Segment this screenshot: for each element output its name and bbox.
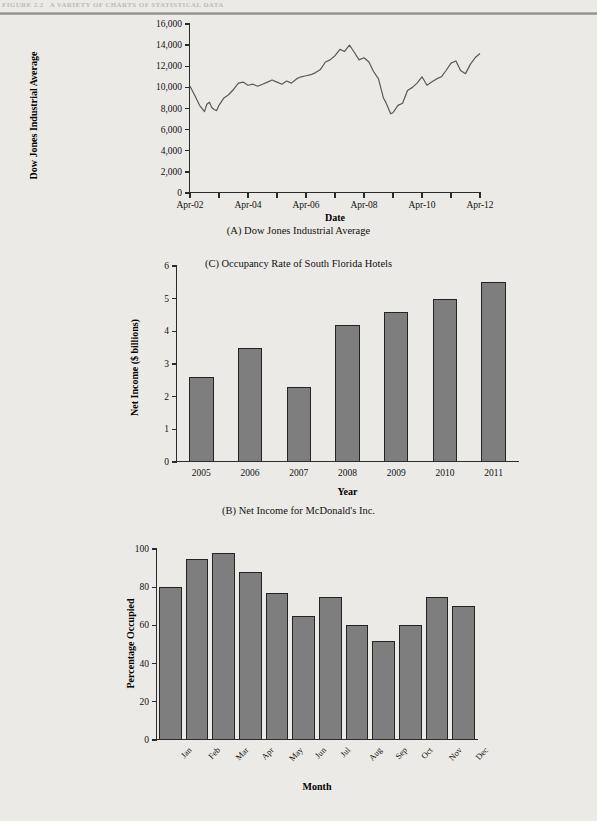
chart-a-plot-area xyxy=(190,24,480,193)
x-tick-label: Aug xyxy=(367,745,384,763)
figure-header: FIGURE 2.2A VARIETY OF CHARTS OF STATIST… xyxy=(0,0,597,10)
bar xyxy=(319,597,342,740)
bar xyxy=(372,641,395,740)
bar xyxy=(481,282,505,462)
y-tick-label: 0 xyxy=(0,735,149,745)
bar xyxy=(452,606,475,740)
y-tick-label: 4 xyxy=(0,326,169,336)
bar xyxy=(399,625,422,740)
y-tick-label: 12,000 xyxy=(0,61,182,71)
x-tick-mark xyxy=(189,193,190,198)
x-tick-label: 2009 xyxy=(387,468,406,478)
x-tick-label: Apr xyxy=(260,745,276,761)
x-tick-mark xyxy=(218,193,219,198)
x-tick-label: Apr-04 xyxy=(234,200,261,210)
y-tick-label: 4,000 xyxy=(0,146,182,156)
y-tick-label: 0 xyxy=(0,457,169,467)
bar xyxy=(426,597,449,740)
x-tick-mark xyxy=(392,193,393,198)
y-tick-label: 60 xyxy=(0,620,149,630)
x-tick-label: 2005 xyxy=(192,468,211,478)
header-rule xyxy=(0,12,597,15)
x-tick-label: May xyxy=(287,745,305,763)
x-tick-label: Apr-08 xyxy=(350,200,377,210)
x-tick-mark xyxy=(479,193,480,198)
y-tick-label: 80 xyxy=(0,582,149,592)
chart-b-x-axis xyxy=(176,461,519,462)
x-tick-mark xyxy=(363,193,364,198)
y-tick-label: 5 xyxy=(0,294,169,304)
chart-b-y-axis xyxy=(176,266,177,462)
dow-jones-line xyxy=(190,45,480,114)
x-tick-label: Feb xyxy=(206,745,222,761)
bar xyxy=(292,616,315,740)
chart-b-plot-area xyxy=(177,266,518,462)
bar xyxy=(335,325,359,462)
bar xyxy=(212,553,235,740)
bar xyxy=(266,593,289,740)
chart-a-line-series xyxy=(190,24,480,193)
chart-hotel-occupancy: Percentage Occupied 020406080100 JanFebM… xyxy=(0,543,597,813)
x-tick-label: Nov xyxy=(447,745,464,763)
bar xyxy=(159,587,182,740)
bar xyxy=(433,299,457,462)
x-tick-mark xyxy=(305,193,306,198)
chart-b-x-axis-title: Year xyxy=(177,486,518,497)
x-tick-label: Jan xyxy=(179,745,194,760)
chart-a-x-axis-title: Date xyxy=(190,212,480,223)
chart-b-caption: (B) Net Income for McDonald's Inc. xyxy=(0,505,597,516)
bar xyxy=(189,377,213,462)
bar xyxy=(287,387,311,462)
figure-title: A VARIETY OF CHARTS OF STATISTICAL DATA xyxy=(50,1,224,9)
y-tick-label: 8,000 xyxy=(0,104,182,114)
x-tick-label: Apr-12 xyxy=(466,200,493,210)
bar xyxy=(384,312,408,462)
bar xyxy=(346,625,369,740)
x-tick-mark xyxy=(450,193,451,198)
bar xyxy=(186,559,209,740)
x-tick-label: 2010 xyxy=(435,468,454,478)
chart-c-caption: (C) Occupancy Rate of South Florida Hote… xyxy=(0,258,597,269)
x-tick-label: 2008 xyxy=(338,468,357,478)
bar xyxy=(239,572,262,740)
bar xyxy=(238,348,262,462)
chart-mcdonalds-net-income: Net Income ($ billions) 0123456 20052006… xyxy=(0,262,597,512)
x-tick-label: Sep xyxy=(393,745,409,761)
chart-c-plot-area xyxy=(157,549,477,740)
y-tick-label: 40 xyxy=(0,659,149,669)
x-tick-label: Apr-06 xyxy=(292,200,319,210)
y-tick-label: 100 xyxy=(0,544,149,554)
y-tick-label: 0 xyxy=(0,188,182,198)
x-tick-label: Apr-02 xyxy=(176,200,203,210)
y-tick-label: 16,000 xyxy=(0,19,182,29)
y-tick-label: 6,000 xyxy=(0,125,182,135)
x-tick-label: 2006 xyxy=(241,468,260,478)
chart-c-x-axis xyxy=(156,739,478,740)
x-tick-label: 2011 xyxy=(484,468,503,478)
x-tick-mark xyxy=(334,193,335,198)
chart-dow-jones: Dow Jones Industrial Average 02,0004,000… xyxy=(0,18,597,233)
y-tick-label: 2 xyxy=(0,392,169,402)
chart-c-y-axis xyxy=(156,549,157,740)
x-tick-mark xyxy=(247,193,248,198)
x-tick-mark xyxy=(276,193,277,198)
x-tick-label: Dec xyxy=(473,745,490,762)
y-tick-label: 3 xyxy=(0,359,169,369)
x-tick-label: Jul xyxy=(338,745,352,759)
x-tick-label: Apr-10 xyxy=(408,200,435,210)
y-tick-label: 20 xyxy=(0,697,149,707)
y-tick-label: 10,000 xyxy=(0,82,182,92)
figure-number: FIGURE 2.2 xyxy=(2,1,44,9)
y-tick-label: 14,000 xyxy=(0,40,182,50)
x-tick-label: Jun xyxy=(312,745,327,760)
y-tick-label: 1 xyxy=(0,424,169,434)
x-tick-mark xyxy=(421,193,422,198)
y-tick-label: 2,000 xyxy=(0,167,182,177)
x-tick-label: Oct xyxy=(419,745,435,761)
x-tick-label: Mar xyxy=(233,745,250,762)
x-tick-label: 2007 xyxy=(289,468,308,478)
figure-page: FIGURE 2.2A VARIETY OF CHARTS OF STATIST… xyxy=(0,0,597,821)
chart-a-caption: (A) Dow Jones Industrial Average xyxy=(0,225,597,236)
chart-a-y-axis xyxy=(189,24,190,193)
chart-c-x-axis-title: Month xyxy=(157,781,477,792)
